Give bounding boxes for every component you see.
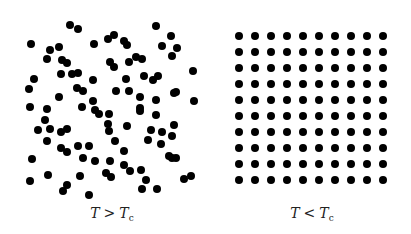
particle-dot [299,64,307,72]
particle-dot [44,171,52,179]
particle-dot [363,160,371,168]
particle-dot [55,43,63,51]
particle-dot [78,103,86,111]
particle-dot [123,122,131,130]
particle-dot [107,173,115,181]
disordered-dots-panel [25,21,198,199]
phase-transition-figure: T>Tc T<Tc [0,0,411,234]
particle-dot [46,125,54,133]
ordered-lattice-panel [235,32,387,184]
particle-dot [299,80,307,88]
particle-dot [267,112,275,120]
particle-dot [43,137,51,145]
particle-dot [299,144,307,152]
particle-dot [126,167,134,175]
particle-dot [267,160,275,168]
particle-dot [91,157,99,165]
caption-var-t: T [90,205,99,221]
particle-dot [347,64,355,72]
particle-dot [235,32,243,40]
particle-dot [251,112,259,120]
caption-above-critical: T>Tc [90,205,133,223]
particle-dot [379,144,387,152]
particle-dot [379,112,387,120]
particle-dot [63,125,71,133]
particle-dot [157,140,165,148]
particle-dot [379,160,387,168]
particle-dot [363,32,371,40]
particle-dot [235,128,243,136]
particle-dot [379,176,387,184]
particle-dot [189,67,197,75]
particle-dot [136,107,144,115]
particle-dot [95,110,103,118]
particle-dot [136,93,144,101]
particle-dot [299,48,307,56]
particle-dot [347,96,355,104]
particle-dot [66,21,74,29]
particle-dot [27,40,35,48]
particle-dot [154,72,162,80]
particle-dot [142,176,150,184]
particle-dot [379,64,387,72]
particle-dot [120,147,128,155]
particle-dot [315,80,323,88]
particle-dot [57,70,65,78]
particle-dot [26,177,34,185]
particle-dot [235,144,243,152]
particle-dot [331,160,339,168]
caption-operator: > [104,205,116,221]
particle-dot [363,144,371,152]
particle-dot [172,88,180,96]
particle-dot [315,48,323,56]
particle-dot [347,160,355,168]
particle-dot [283,176,291,184]
particle-dot [125,58,133,66]
particle-dot [299,128,307,136]
particle-dot [379,96,387,104]
particle-dot [158,42,166,50]
particle-dot [46,46,54,54]
particle-dot [168,132,176,140]
particle-dot [267,144,275,152]
particle-dot [152,111,160,119]
particle-dot [43,55,51,63]
particle-dot [267,176,275,184]
particle-dot [187,172,195,180]
particle-dot [315,144,323,152]
particle-dot [152,22,160,30]
particle-dot [89,97,97,105]
particle-dot [331,128,339,136]
caption-below-critical: T<Tc [290,205,333,223]
particle-dot [85,142,93,150]
particle-dot [172,154,180,162]
particle-dot [331,64,339,72]
particle-dot [363,96,371,104]
particle-dot [251,80,259,88]
particle-dot [30,75,38,83]
particle-dot [111,137,119,145]
particle-dot [299,112,307,120]
particle-dot [74,25,82,33]
particle-dot [251,32,259,40]
particle-dot [299,160,307,168]
particle-dot [267,96,275,104]
particle-dot [138,185,146,193]
particle-dot [168,52,176,60]
particle-dot [90,40,98,48]
particle-dot [140,72,148,80]
particle-dot [299,96,307,104]
particle-dot [379,80,387,88]
particle-dot [283,32,291,40]
particle-dot [79,87,87,95]
particle-dot [125,87,133,95]
particle-dot [76,172,84,180]
particle-dot [28,155,36,163]
particle-dot [251,64,259,72]
particle-dot [267,48,275,56]
particle-dot [283,128,291,136]
particle-dot [173,44,181,52]
particle-dot [331,144,339,152]
particle-dot [120,161,128,169]
particle-dot [331,176,339,184]
